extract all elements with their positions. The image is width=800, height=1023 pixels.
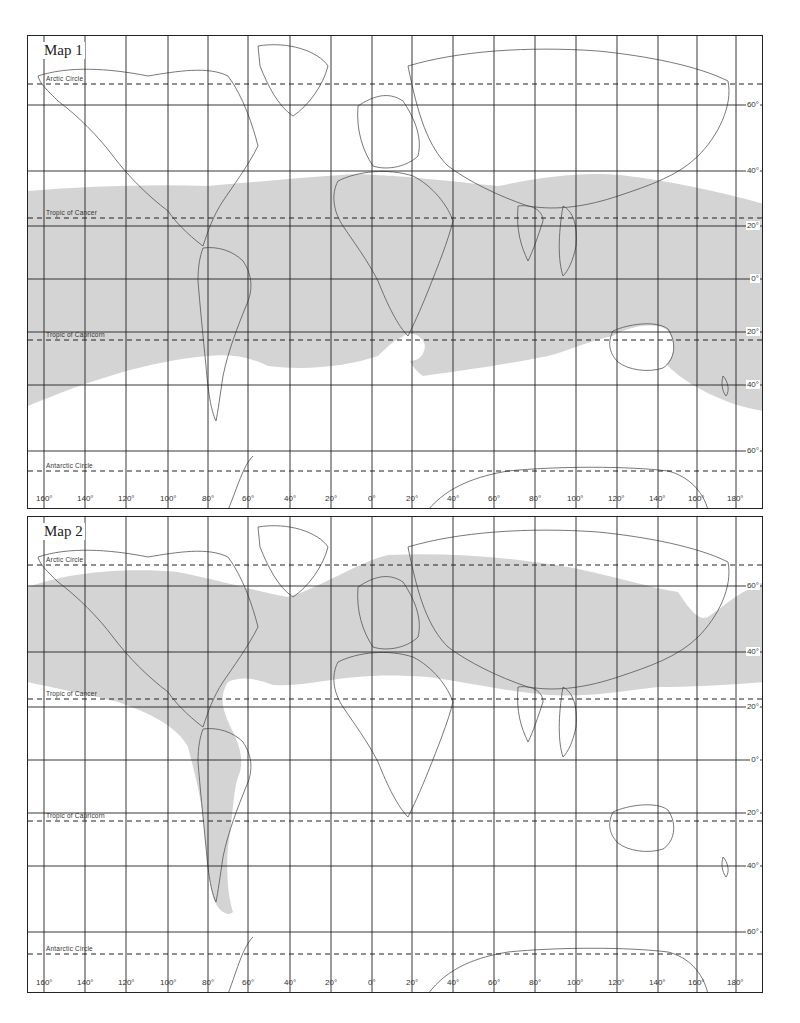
map-2-lat-label: 0° xyxy=(750,755,760,764)
map-1-tropic-of-capricorn-label: Tropic of Capricorn xyxy=(46,331,105,338)
map-1: Map 1 Arctic Circle Tropic of Cancer Tro… xyxy=(27,35,763,509)
map-1-lon-label: 120° xyxy=(608,494,625,503)
map-2-lon-label: 60° xyxy=(488,978,500,987)
map-2: Map 2 Arctic Circle Tropic of Cancer Tro… xyxy=(27,516,763,993)
map-1-lat-label: 60° xyxy=(746,446,760,455)
map-2-lat-label: 20° xyxy=(746,808,760,817)
map-2-lon-label: 40° xyxy=(284,978,296,987)
map-1-lon-label: 140° xyxy=(77,494,94,503)
map-2-lon-label: 80° xyxy=(202,978,214,987)
map-2-lon-label: 120° xyxy=(118,978,135,987)
map-2-antarctic-circle-label: Antarctic Circle xyxy=(46,945,93,952)
map-1-lon-label: 40° xyxy=(284,494,296,503)
map-2-lon-label: 40° xyxy=(447,978,459,987)
map-2-lat-label: 60° xyxy=(746,581,760,590)
map-1-lat-label: 20° xyxy=(746,327,760,336)
map-2-lon-label: 180° xyxy=(727,978,744,987)
map-1-lon-label: 60° xyxy=(488,494,500,503)
map-2-lon-label: 160° xyxy=(36,978,53,987)
map-1-lon-label: 100° xyxy=(160,494,177,503)
map-1-lon-label: 140° xyxy=(649,494,666,503)
map-1-canvas xyxy=(28,36,763,509)
map-1-antarctic-circle-label: Antarctic Circle xyxy=(46,462,93,469)
map-1-lon-label: 80° xyxy=(529,494,541,503)
map-1-title: Map 1 xyxy=(42,42,85,59)
map-2-shaded-region xyxy=(28,554,763,914)
map-2-canvas xyxy=(28,517,763,993)
map-1-arctic-circle-label: Arctic Circle xyxy=(46,75,83,82)
map-2-lon-label: 100° xyxy=(567,978,584,987)
map-2-lon-label: 140° xyxy=(77,978,94,987)
map-2-lon-label: 80° xyxy=(529,978,541,987)
map-2-tropic-of-cancer-label: Tropic of Cancer xyxy=(46,690,97,697)
map-2-lon-label: 60° xyxy=(242,978,254,987)
map-1-lon-label: 160° xyxy=(36,494,53,503)
map-2-lat-label: 60° xyxy=(746,927,760,936)
map-1-lat-label: 40° xyxy=(746,380,760,389)
map-1-lon-label: 80° xyxy=(202,494,214,503)
map-2-lat-label: 40° xyxy=(746,647,760,656)
map-1-lon-label: 160° xyxy=(688,494,705,503)
map-1-lat-label: 20° xyxy=(746,221,760,230)
map-2-lon-label: 100° xyxy=(160,978,177,987)
map-1-lon-label: 120° xyxy=(118,494,135,503)
map-1-lon-label: 40° xyxy=(447,494,459,503)
map-1-lon-label: 60° xyxy=(242,494,254,503)
map-1-lon-label: 100° xyxy=(567,494,584,503)
map-1-lon-label: 20° xyxy=(406,494,418,503)
map-2-lon-label: 0° xyxy=(368,978,376,987)
map-1-lon-label: 20° xyxy=(325,494,337,503)
map-1-lon-label: 180° xyxy=(727,494,744,503)
map-2-tropic-of-capricorn-label: Tropic of Capricorn xyxy=(46,812,105,819)
map-2-arctic-circle-label: Arctic Circle xyxy=(46,556,83,563)
map-1-tropic-of-cancer-label: Tropic of Cancer xyxy=(46,209,97,216)
map-2-lat-label: 20° xyxy=(746,702,760,711)
map-2-lon-label: 20° xyxy=(325,978,337,987)
map-2-lon-label: 140° xyxy=(649,978,666,987)
map-1-lon-label: 0° xyxy=(368,494,376,503)
map-1-lat-label: 60° xyxy=(746,100,760,109)
map-2-lon-label: 120° xyxy=(608,978,625,987)
map-2-title: Map 2 xyxy=(42,523,85,540)
map-2-lon-label: 160° xyxy=(688,978,705,987)
map-2-lon-label: 20° xyxy=(406,978,418,987)
map-1-lat-label: 40° xyxy=(746,166,760,175)
map-1-lat-label: 0° xyxy=(750,274,760,283)
map-2-lat-label: 40° xyxy=(746,861,760,870)
map-1-shaded-region xyxy=(28,174,763,411)
